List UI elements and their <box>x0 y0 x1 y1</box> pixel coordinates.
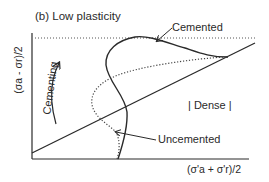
diagram-canvas <box>0 0 269 182</box>
cemented-pointer-arrow <box>157 28 172 41</box>
uncemented-pointer-arrow <box>116 132 156 140</box>
cemented-label: Cemented <box>172 21 223 33</box>
uncemented-label: Uncemented <box>158 133 220 145</box>
figure-title: (b) Low plasticity <box>35 10 121 22</box>
stress-path-diagram: (b) Low plasticity Cemented | Dense | Un… <box>0 0 269 182</box>
critical-state-line <box>32 43 255 153</box>
dense-label: | Dense | <box>188 99 232 111</box>
x-axis-label: (σ'a + σ'r)/2 <box>187 163 241 175</box>
y-axis-label: (σa - σr)/2 <box>12 42 24 98</box>
